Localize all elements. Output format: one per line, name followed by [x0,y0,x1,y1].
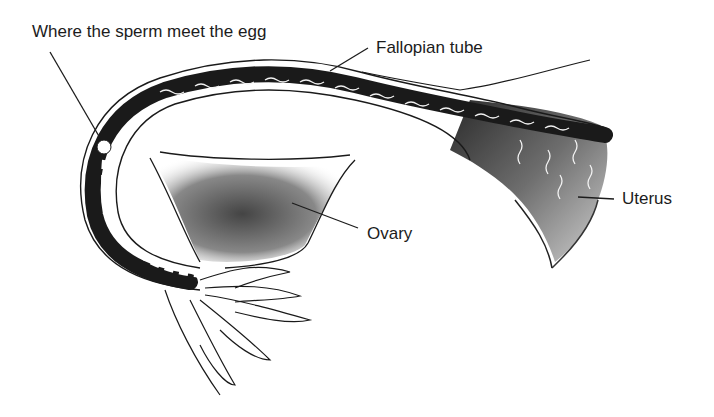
ovary-shape [150,152,355,268]
label-uterus: Uterus [622,190,672,207]
leader-meeting-point [50,52,100,138]
leader-fallopian-tube [330,48,368,71]
label-fallopian-tube: Fallopian tube [376,39,483,56]
label-meeting-point: Where the sperm meet the egg [32,23,266,40]
reproductive-diagram: Where the sperm meet the egg Fallopian t… [0,0,714,417]
diagram-artwork [0,0,714,417]
egg-icon [97,140,111,154]
label-ovary: Ovary [367,225,412,242]
